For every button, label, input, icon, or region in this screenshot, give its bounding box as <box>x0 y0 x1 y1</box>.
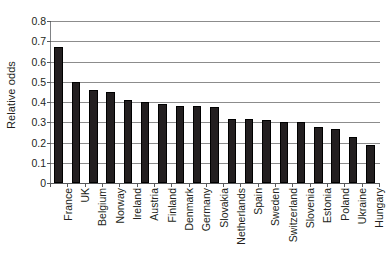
x-axis-tick <box>379 183 380 187</box>
bar <box>54 47 63 183</box>
bar <box>245 119 254 183</box>
x-axis-category-label-text: Slovakia <box>219 188 230 228</box>
x-axis-category-label: Germany <box>201 188 212 231</box>
y-axis-tick-label: 0.7 <box>31 36 46 46</box>
bar <box>124 100 133 183</box>
x-axis-category-label-text: Denmark <box>184 188 195 231</box>
x-axis-category-label-text: Hungary <box>374 188 385 228</box>
x-axis-category-label: Austria <box>149 188 160 221</box>
x-axis-category-label: Denmark <box>184 188 195 231</box>
x-axis-tick <box>189 183 190 187</box>
y-axis-tick-label: 0.5 <box>31 77 46 87</box>
x-axis-category-label-text: Norway <box>115 188 126 224</box>
x-axis-category-label-text: Slovenia <box>305 188 316 228</box>
bars-layer <box>50 21 379 183</box>
x-axis-category-label: UK <box>80 188 91 203</box>
bar <box>72 82 81 183</box>
y-axis-tick-label: 0.3 <box>31 117 46 127</box>
y-axis-tick-label: 0.1 <box>31 158 46 168</box>
x-axis-category-label: France <box>63 188 74 221</box>
x-axis-category-label: Ireland <box>132 188 143 220</box>
bar <box>141 102 150 183</box>
bar <box>176 106 185 183</box>
bar <box>89 90 98 183</box>
x-axis-category-label-text: Estonia <box>322 188 333 223</box>
x-axis-tick <box>137 183 138 187</box>
x-axis-tick <box>206 183 207 187</box>
bar <box>106 92 115 183</box>
x-axis-tick <box>310 183 311 187</box>
x-axis-category-label-text: Sweden <box>270 188 281 226</box>
y-axis-tick-label: 0.6 <box>31 57 46 67</box>
x-axis-category-label: Belgium <box>97 188 108 226</box>
x-axis-tick <box>258 183 259 187</box>
x-axis-category-label: Poland <box>340 188 351 221</box>
x-axis-tick <box>102 183 103 187</box>
x-axis-category-label-text: France <box>63 188 74 221</box>
x-axis-category-label-text: Switzerland <box>288 188 299 242</box>
bar <box>158 104 167 183</box>
x-axis-category-label: Netherlands <box>236 188 247 245</box>
bar <box>193 106 202 183</box>
x-axis-tick <box>223 183 224 187</box>
x-axis-category-label: Estonia <box>322 188 333 223</box>
x-axis-tick <box>344 183 345 187</box>
x-axis-category-label-text: Netherlands <box>236 188 247 245</box>
y-axis-title: Relative odds <box>0 0 22 190</box>
x-axis-category-label-text: Finland <box>167 188 178 222</box>
bar <box>314 127 323 183</box>
x-axis-category-label-text: Austria <box>149 188 160 221</box>
x-axis-category-label-text: Spain <box>253 188 264 215</box>
x-axis-tick <box>50 183 51 187</box>
x-axis-tick <box>275 183 276 187</box>
x-axis-category-label-text: Belgium <box>97 188 108 226</box>
y-axis-tick-label: 0 <box>40 178 46 188</box>
x-axis-category-label: Spain <box>253 188 264 215</box>
x-axis-category-label: Norway <box>115 188 126 224</box>
x-axis-tick <box>154 183 155 187</box>
x-axis-category-label: Hungary <box>374 188 385 228</box>
x-axis-category-label: Slovenia <box>305 188 316 228</box>
bar <box>331 129 340 183</box>
x-axis-category-label-text: Germany <box>201 188 212 231</box>
bar <box>280 122 289 183</box>
y-axis-tick-labels: 0.80.70.60.50.40.30.20.10 <box>22 15 48 189</box>
bar <box>262 120 271 183</box>
x-axis-tick <box>240 183 241 187</box>
x-axis-category-labels: FranceUKBelgiumNorwayIrelandAustriaFinla… <box>50 188 380 270</box>
bar <box>297 122 306 183</box>
x-axis-category-label-text: Ireland <box>132 188 143 220</box>
x-axis-category-label-text: UK <box>80 188 91 203</box>
y-axis-title-text: Relative odds <box>5 61 17 129</box>
x-axis-category-label-text: Poland <box>340 188 351 221</box>
x-axis-category-label-text: Ukraine <box>357 188 368 224</box>
bar <box>210 107 219 183</box>
y-axis-tick-label: 0.2 <box>31 138 46 148</box>
x-axis-tick <box>327 183 328 187</box>
x-axis-category-label: Slovakia <box>219 188 230 228</box>
x-axis-category-label: Ukraine <box>357 188 368 224</box>
x-axis-tick <box>362 183 363 187</box>
x-axis-tick <box>85 183 86 187</box>
bar <box>349 137 358 183</box>
bar <box>228 119 237 183</box>
x-axis-tick <box>119 183 120 187</box>
x-axis-category-label: Sweden <box>270 188 281 226</box>
relative-odds-bar-chart: Relative odds 0.80.70.60.50.40.30.20.10 … <box>0 0 387 270</box>
x-axis-tick <box>292 183 293 187</box>
y-axis-tick-label: 0.8 <box>31 16 46 26</box>
x-axis-category-label: Switzerland <box>288 188 299 242</box>
bar <box>366 145 375 183</box>
x-axis-tick <box>67 183 68 187</box>
x-axis-category-label: Finland <box>167 188 178 222</box>
y-axis-tick-label: 0.4 <box>31 97 46 107</box>
x-axis-tick <box>171 183 172 187</box>
